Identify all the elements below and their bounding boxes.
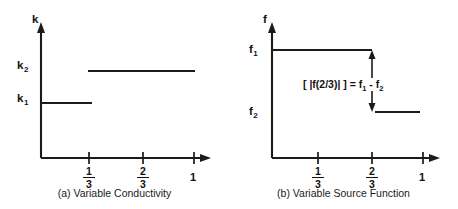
level-label-k2-name: k [17,59,23,71]
fraction-numerator: 2 [135,166,151,177]
panel-caption-b: (b) Variable Source Function [229,187,458,199]
panel-variable-source-function: f f1 f2 [ |f(2/3)| ] = f1 - f2 1 3 2 3 1… [229,0,458,209]
level-label-f1: f1 [249,44,257,56]
x-tick-label-one-b: 1 [419,172,425,183]
level-label-k2-sub: 2 [24,65,28,74]
y-axis-label-b: f [263,14,267,26]
fraction-numerator: 2 [364,166,380,177]
fraction-numerator: 1 [81,166,97,177]
jump-annotation-sub1: 1 [362,84,366,93]
panel-variable-conductivity: k k2 k1 1 3 2 3 1 (a) Variable Conductiv… [0,0,229,209]
y-axis-label-a: k [32,14,38,26]
jump-annotation-sub2: 2 [379,84,383,93]
x-tick-label-two-thirds-b: 2 3 [364,166,380,189]
jump-annotation: [ |f(2/3)| ] = f1 - f2 [302,78,384,91]
level-label-f2-sub: 2 [253,111,257,120]
x-tick-label-one-third-b: 1 3 [310,166,326,189]
y-axis-arrowhead-b [268,22,276,33]
x-tick-label-two-thirds-a: 2 3 [135,166,151,189]
level-label-k1-name: k [17,92,23,104]
jump-annotation-mid: - f [366,78,379,90]
level-label-k1-sub: 1 [24,98,28,107]
level-label-f1-sub: 1 [253,49,257,58]
x-axis-arrowhead-b [429,154,440,162]
jump-arrowhead-up [369,50,376,59]
figure-container: k k2 k1 1 3 2 3 1 (a) Variable Conductiv… [0,0,458,209]
x-tick-label-one-third-a: 1 3 [81,166,97,189]
level-label-k1: k1 [17,93,28,105]
jump-annotation-lhs: [ |f(2/3)| ] = f [303,78,362,90]
x-axis-arrowhead-a [200,154,211,162]
jump-arrowhead-down [369,103,376,112]
level-label-f2: f2 [249,106,257,118]
level-label-k2: k2 [17,60,28,72]
x-tick-label-one-a: 1 [190,172,196,183]
fraction-numerator: 1 [310,166,326,177]
panel-caption-a: (a) Variable Conductivity [0,187,229,199]
